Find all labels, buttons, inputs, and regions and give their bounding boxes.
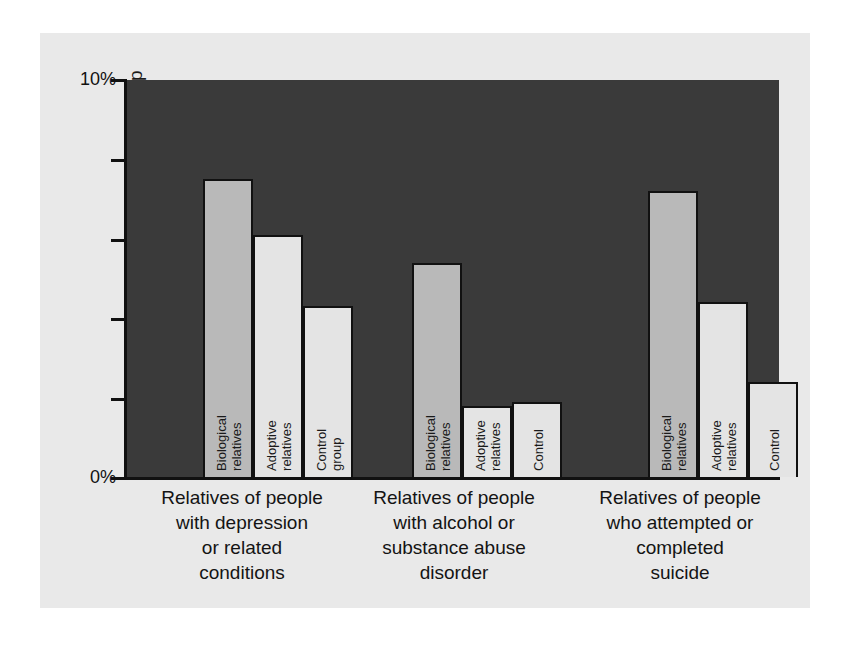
bar-group-substance-abuse: Biological relatives Adoptive relatives … xyxy=(412,80,562,477)
x-category-label-substance-abuse: Relatives of people with alcohol or subs… xyxy=(349,485,559,585)
bar-label-wrapper: Control xyxy=(750,271,800,471)
bar-label-wrapper: Control group xyxy=(305,271,355,471)
bar-label-wrapper: Adoptive relatives xyxy=(700,271,750,471)
bar-label: Control xyxy=(532,429,547,471)
y-tick-label-10: 10% xyxy=(62,69,116,90)
chart-figure-panel: Percent of people who will develop the c… xyxy=(40,33,810,608)
bar-label: Biological relatives xyxy=(424,415,454,471)
bar-biological-relatives[interactable]: Biological relatives xyxy=(648,191,698,477)
bar-label: Biological relatives xyxy=(215,415,245,471)
plot-area: Biological relatives Adoptive relatives … xyxy=(127,80,779,477)
bar-label-wrapper: Biological relatives xyxy=(205,271,255,471)
bar-label-wrapper: Adoptive relatives xyxy=(464,271,514,471)
bar-biological-relatives[interactable]: Biological relatives xyxy=(412,263,462,477)
x-axis-line xyxy=(124,477,780,480)
bar-label-wrapper: Biological relatives xyxy=(414,271,464,471)
bar-label: Control group xyxy=(315,429,345,471)
x-axis-category-labels: Relatives of people with depression or r… xyxy=(127,485,779,605)
bar-label: Adoptive relatives xyxy=(710,420,740,471)
bar-label: Biological relatives xyxy=(660,415,690,471)
bar-group-suicide: Biological relatives Adoptive relatives … xyxy=(648,80,798,477)
bar-biological-relatives[interactable]: Biological relatives xyxy=(203,179,253,477)
bar-adoptive-relatives[interactable]: Adoptive relatives xyxy=(253,235,303,477)
x-category-label-depression: Relatives of people with depression or r… xyxy=(137,485,347,585)
x-category-label-suicide: Relatives of people who attempted or com… xyxy=(575,485,785,585)
bar-control[interactable]: Control xyxy=(748,382,798,477)
bar-label: Adoptive relatives xyxy=(265,420,295,471)
bar-label-wrapper: Biological relatives xyxy=(650,271,700,471)
bar-label: Adoptive relatives xyxy=(474,420,504,471)
bar-label-wrapper: Control xyxy=(514,271,564,471)
bar-label-wrapper: Adoptive relatives xyxy=(255,271,305,471)
bar-adoptive-relatives[interactable]: Adoptive relatives xyxy=(698,302,748,477)
bar-adoptive-relatives[interactable]: Adoptive relatives xyxy=(462,406,512,477)
bar-label: Control xyxy=(768,429,783,471)
y-tick-label-0: 0% xyxy=(62,467,116,488)
bar-control-group[interactable]: Control group xyxy=(303,306,353,477)
y-axis-tick-labels: 10% 0% xyxy=(60,33,116,608)
bar-group-depression: Biological relatives Adoptive relatives … xyxy=(203,80,353,477)
bar-control[interactable]: Control xyxy=(512,402,562,477)
